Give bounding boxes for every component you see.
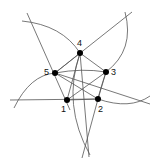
line-through-1-2 <box>10 99 100 100</box>
arc-right <box>98 12 128 99</box>
node-2 <box>95 96 101 102</box>
line-through-4-3 <box>55 12 132 73</box>
node-label-5: 5 <box>44 67 49 77</box>
edge-3-4 <box>80 53 106 72</box>
diagonal-5-2 <box>55 73 98 99</box>
node-label-4: 4 <box>77 38 82 48</box>
node-label-3: 3 <box>111 67 116 77</box>
node-4 <box>77 50 83 56</box>
arc-top <box>22 21 80 53</box>
arc-bottom-right <box>98 96 150 104</box>
node-1 <box>64 97 70 103</box>
pentagon-construction-diagram: 1 2 3 4 5 <box>0 0 160 168</box>
node-label-2: 2 <box>98 104 103 114</box>
node-5 <box>52 70 58 76</box>
construction-lines <box>10 12 150 158</box>
line-through-4-2 <box>80 53 89 157</box>
node-3 <box>103 69 109 75</box>
node-label-1: 1 <box>61 104 66 114</box>
